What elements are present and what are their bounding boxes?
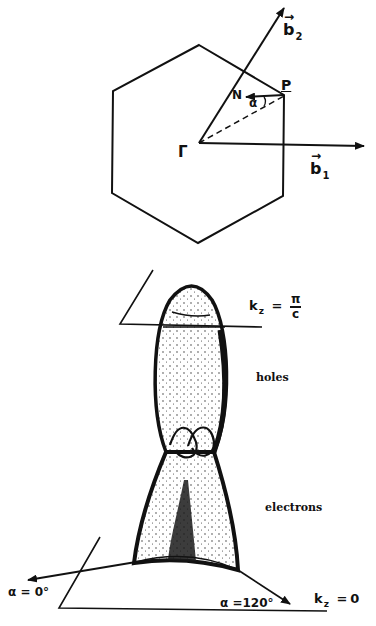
arrow-alpha-0 xyxy=(28,562,136,580)
fermi-surface-figure xyxy=(28,270,327,611)
vector-b2 xyxy=(199,8,284,143)
label-alpha: α xyxy=(249,97,257,109)
hole-pocket xyxy=(155,286,226,452)
gamma-to-p-dashed xyxy=(199,96,284,143)
label-electrons: electrons xyxy=(265,502,322,513)
label-alpha-120: α =120° xyxy=(220,597,274,609)
label-b2: →b2 xyxy=(283,22,302,38)
label-kz-pi-over-c: kz = π c xyxy=(249,293,301,320)
vector-arrow-glyph: → xyxy=(311,150,321,162)
label-kz-0: kz =0 xyxy=(314,592,359,605)
brillouin-zone xyxy=(112,8,364,243)
vector-b1 xyxy=(199,143,364,146)
angle-arc xyxy=(264,97,266,106)
fraction: π c xyxy=(290,293,302,320)
label-holes: holes xyxy=(256,372,289,383)
label-gamma: Γ xyxy=(178,145,188,160)
label-p: P xyxy=(281,78,291,92)
label-alpha-0: α = 0° xyxy=(8,586,49,598)
label-n: N xyxy=(232,89,242,101)
label-b1: →b1 xyxy=(310,161,329,177)
vector-arrow-glyph: → xyxy=(284,11,294,23)
diagram-canvas xyxy=(0,0,376,626)
